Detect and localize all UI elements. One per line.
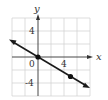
x-tick-4: 4 [61,59,67,69]
coordinate-graph: y x 4 -4 0 4 [0,0,108,100]
point-5-neg3 [68,74,73,79]
y-tick-neg4: -4 [25,78,34,88]
y-axis-arrow-icon [36,14,40,20]
y-tick-4: 4 [29,26,35,36]
origin-label: 0 [29,59,35,69]
x-axis [12,55,93,59]
x-axis-label: x [96,51,102,62]
point-origin [35,54,40,59]
plotted-line [9,40,90,88]
y-axis-label: y [33,3,40,14]
